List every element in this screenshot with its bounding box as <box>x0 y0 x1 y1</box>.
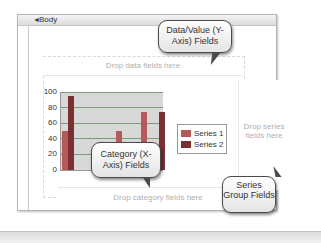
bottom-panel-edge <box>0 231 321 243</box>
callout-text: Category (X-Axis) Fields <box>100 149 151 170</box>
y-tick-label: 40 <box>42 134 57 143</box>
series-fields-drop-zone[interactable]: Drop series fields here <box>238 80 289 190</box>
bar-series-2 <box>68 96 74 170</box>
legend-swatch <box>181 141 191 148</box>
data-fields-callout: Data/Value (Y-Axis) Fields <box>158 20 232 53</box>
legend-swatch <box>181 130 191 137</box>
gridline <box>61 138 163 139</box>
series-fields-callout: Series Group Fields <box>222 176 276 213</box>
y-tick-label: 80 <box>42 103 57 112</box>
gridline <box>61 107 163 108</box>
category-fields-callout: Category (X-Axis) Fields <box>91 142 161 178</box>
section-label: Body <box>39 15 57 25</box>
y-tick-label: 0 <box>42 165 57 174</box>
legend-label: Series 1 <box>194 129 223 138</box>
legend-label: Series 2 <box>194 140 223 149</box>
section-title-bar[interactable]: ◄ Body <box>18 15 276 26</box>
gridline <box>61 92 163 93</box>
y-tick-label: 100 <box>42 87 57 96</box>
legend-item: Series 1 <box>181 129 223 138</box>
y-tick-label: 20 <box>42 149 57 158</box>
gridline <box>61 123 163 124</box>
series-drop-label: Drop series fields here <box>239 122 289 140</box>
chart-legend: Series 1 Series 2 <box>177 124 227 154</box>
y-tick-label: 60 <box>42 118 57 127</box>
legend-item: Series 2 <box>181 140 223 149</box>
callout-text: Data/Value (Y-Axis) Fields <box>166 25 224 46</box>
callout-text: Series Group Fields <box>223 180 275 200</box>
